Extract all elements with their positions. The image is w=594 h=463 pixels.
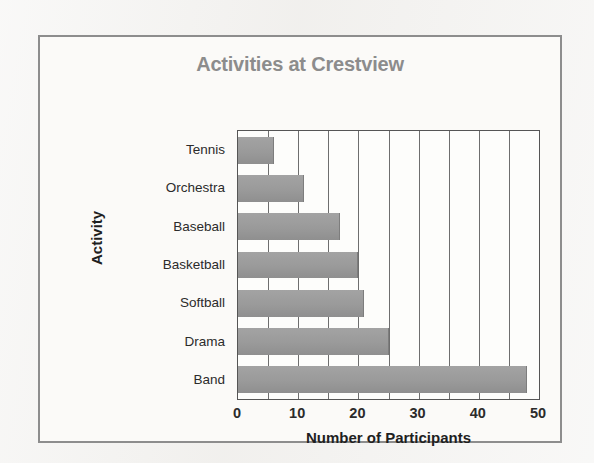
x-tick-label-30: 30 bbox=[410, 405, 426, 421]
y-tick-label-band: Band bbox=[193, 371, 225, 386]
y-tick-label-orchestra: Orchestra bbox=[166, 180, 225, 195]
x-tick-label-50: 50 bbox=[530, 405, 546, 421]
bar-slot-band bbox=[238, 366, 539, 393]
bar-slot-orchestra bbox=[238, 175, 539, 202]
chart-title: Activities at Crestview bbox=[40, 53, 560, 76]
bar-slot-baseball bbox=[238, 213, 539, 240]
bar-slot-tennis bbox=[238, 137, 539, 164]
x-axis-title: Number of Participants bbox=[237, 429, 540, 446]
x-tick-label-10: 10 bbox=[289, 405, 305, 421]
y-tick-label-basketball: Basketball bbox=[163, 257, 225, 272]
y-tick-label-tennis: Tennis bbox=[186, 142, 225, 157]
y-axis-tick-labels: TennisOrchestraBaseballBasketballSoftbal… bbox=[100, 130, 231, 400]
plot-area bbox=[237, 130, 540, 400]
bar-series bbox=[238, 131, 539, 399]
bar-orchestra bbox=[238, 175, 304, 202]
y-tick-label-baseball: Baseball bbox=[173, 218, 225, 233]
bar-slot-basketball bbox=[238, 252, 539, 279]
bar-slot-softball bbox=[238, 290, 539, 317]
x-axis-tick-labels: 01020304050 bbox=[237, 405, 540, 427]
bar-baseball bbox=[238, 213, 340, 240]
x-tick-label-40: 40 bbox=[470, 405, 486, 421]
y-tick-label-drama: Drama bbox=[184, 333, 225, 348]
bar-slot-drama bbox=[238, 328, 539, 355]
bar-softball bbox=[238, 290, 364, 317]
bar-band bbox=[238, 366, 527, 393]
x-tick-label-20: 20 bbox=[349, 405, 365, 421]
x-tick-label-0: 0 bbox=[233, 405, 241, 421]
y-tick-label-softball: Softball bbox=[180, 295, 225, 310]
bar-tennis bbox=[238, 137, 274, 164]
chart-figure-frame: Activities at Crestview Activity TennisO… bbox=[38, 35, 562, 443]
bar-basketball bbox=[238, 252, 358, 279]
bar-drama bbox=[238, 328, 389, 355]
